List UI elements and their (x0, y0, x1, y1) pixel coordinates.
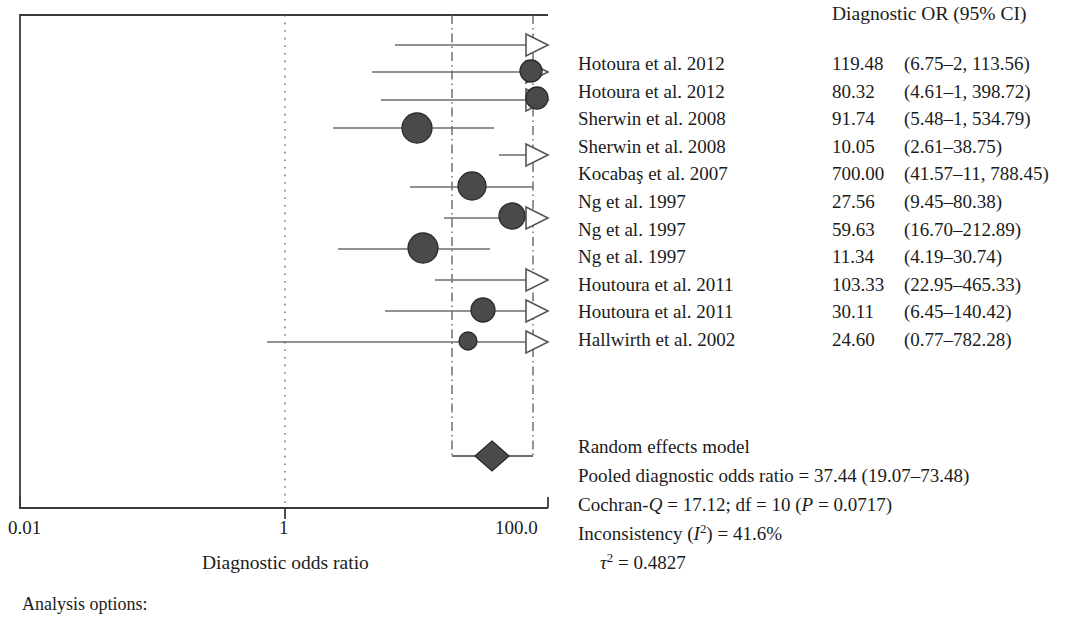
list-item: Ng et al. 1997 (578, 243, 735, 271)
or-estimate: 59.63 (832, 216, 904, 244)
or-ci: (4.61–1, 398.72) (904, 78, 1031, 106)
study-row-5 (499, 144, 548, 166)
table-row: 103.33 (22.95–465.33) (832, 271, 1049, 299)
inconsistency-prefix: Inconsistency ( (578, 523, 694, 544)
study-row-8 (338, 233, 490, 263)
tau-squared-line: τ2 = 0.4827 (578, 548, 969, 577)
tau-symbol: τ (600, 552, 607, 573)
table-row: 119.48 (6.75–2, 113.56) (832, 50, 1049, 78)
x-axis-tick-label-mid: 1 (279, 518, 289, 537)
table-row: 24.60 (0.77–782.28) (832, 326, 1049, 354)
study-row-4 (333, 113, 494, 143)
list-item: Sherwin et al. 2008 (578, 133, 735, 161)
inconsistency-suffix: ) = 41.6% (706, 523, 782, 544)
cochran-q-prefix: Cochran- (578, 494, 649, 515)
inconsistency-line: Inconsistency (I2) = 41.6% (578, 519, 969, 548)
or-ci: (2.61–38.75) (904, 133, 1002, 161)
list-item: Houtoura et al. 2011 (578, 271, 735, 299)
table-row: 91.74 (5.48–1, 534.79) (832, 105, 1049, 133)
summary-statistics: Random effects model Pooled diagnostic o… (578, 432, 969, 577)
list-item: Kocabaş et al. 2007 (578, 160, 735, 188)
or-ci: (16.70–212.89) (904, 216, 1021, 244)
list-item: Hallwirth et al. 2002 (578, 326, 735, 354)
or-estimate: 30.11 (832, 298, 904, 326)
pooled-odds-ratio-line: Pooled diagnostic odds ratio = 37.44 (19… (578, 461, 969, 490)
p-symbol: P (802, 494, 814, 515)
or-ci: (4.19–30.74) (904, 243, 1002, 271)
study-row-6 (410, 172, 533, 200)
cochran-q-line: Cochran-Q = 17.12; df = 10 (P = 0.0717) (578, 490, 969, 519)
or-estimate: 24.60 (832, 326, 904, 354)
list-item: Houtoura et al. 2011 (578, 298, 735, 326)
x-axis-tick-label-right: 100.0 (495, 518, 538, 537)
study-row-10 (385, 298, 548, 322)
table-row: 59.63 (16.70–212.89) (832, 216, 1049, 244)
table-row: 27.56 (9.45–80.38) (832, 188, 1049, 216)
cochran-q-suffix: = 0.0717) (813, 494, 892, 515)
pooled-estimate-diamond (452, 441, 533, 471)
cochran-q-symbol: Q (649, 494, 663, 515)
or-ci: (9.45–80.38) (904, 188, 1002, 216)
table-row: 10.05 (2.61–38.75) (832, 133, 1049, 161)
or-column-header: Diagnostic OR (95% CI) (832, 4, 1026, 24)
or-estimate: 700.00 (832, 160, 904, 188)
or-estimate: 27.56 (832, 188, 904, 216)
study-row-1 (395, 34, 548, 56)
random-effects-model-label: Random effects model (578, 432, 969, 461)
x-axis-title: Diagnostic odds ratio (202, 553, 369, 573)
or-ci: (0.77–782.28) (904, 326, 1012, 354)
list-item: Sherwin et al. 2008 (578, 105, 735, 133)
table-row: 80.32 (4.61–1, 398.72) (832, 78, 1049, 106)
or-ci: (41.57–11, 788.45) (904, 160, 1049, 188)
forest-plot (0, 0, 570, 545)
or-value-column: 119.48 (6.75–2, 113.56) 80.32 (4.61–1, 3… (832, 50, 1049, 354)
list-item: Hotoura et al. 2012 (578, 78, 735, 106)
plot-frame (20, 15, 548, 508)
list-item: Ng et al. 1997 (578, 216, 735, 244)
or-ci: (6.45–140.42) (904, 298, 1012, 326)
table-row: 11.34 (4.19–30.74) (832, 243, 1049, 271)
or-ci: (22.95–465.33) (904, 271, 1021, 299)
or-estimate: 80.32 (832, 78, 904, 106)
study-row-2 (372, 60, 548, 83)
or-estimate: 103.33 (832, 271, 904, 299)
x-axis-tick-label-left: 0.01 (8, 518, 41, 537)
or-estimate: 11.34 (832, 243, 904, 271)
analysis-options-label: Analysis options: (22, 595, 148, 613)
or-ci: (6.75–2, 113.56) (904, 50, 1030, 78)
study-label-column: Hotoura et al. 2012 Hotoura et al. 2012 … (578, 50, 735, 354)
or-estimate: 10.05 (832, 133, 904, 161)
table-row: 700.00 (41.57–11, 788.45) (832, 160, 1049, 188)
study-row-11 (267, 331, 548, 353)
table-row: 30.11 (6.45–140.42) (832, 298, 1049, 326)
tau-squared-value: = 0.4827 (613, 552, 685, 573)
study-row-3 (381, 87, 548, 111)
or-ci: (5.48–1, 534.79) (904, 105, 1031, 133)
or-estimate: 119.48 (832, 50, 904, 78)
list-item: Ng et al. 1997 (578, 188, 735, 216)
cochran-q-middle: = 17.12; df = 10 ( (662, 494, 801, 515)
or-estimate: 91.74 (832, 105, 904, 133)
list-item: Hotoura et al. 2012 (578, 50, 735, 78)
